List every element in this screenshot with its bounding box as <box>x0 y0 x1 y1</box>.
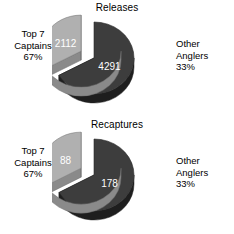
label-line-1: Other <box>176 38 232 50</box>
slice-value-other-anglers: 2112 <box>55 38 77 49</box>
slice-value-top-7-captains: 178 <box>101 178 118 189</box>
label-other-anglers-releases: Other Anglers 33% <box>176 38 232 73</box>
label-line-2: Anglers <box>176 50 232 62</box>
label-other-anglers-recaptures: Other Anglers 33% <box>176 155 232 190</box>
pie-chart-releases: 42912112 <box>52 14 184 114</box>
chart-recaptures: Recaptures Top 7 Captains 67% Other Angl… <box>0 117 234 234</box>
slice-value-top-7-captains: 4291 <box>98 61 121 72</box>
label-line-1: Other <box>176 155 232 167</box>
chart-title-releases: Releases <box>0 2 234 14</box>
label-line-3: 33% <box>176 61 232 73</box>
slice-value-other-anglers: 88 <box>60 155 72 166</box>
chart-releases: Releases Top 7 Captains 67% Other Angler… <box>0 0 234 117</box>
label-line-2: Anglers <box>176 167 232 179</box>
pie-chart-recaptures: 17888 <box>52 131 184 231</box>
chart-title-recaptures: Recaptures <box>0 119 234 131</box>
label-line-3: 33% <box>176 178 232 190</box>
